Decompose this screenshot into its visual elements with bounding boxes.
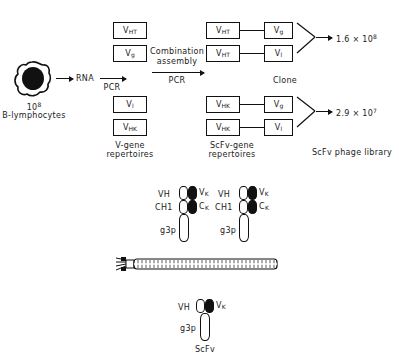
v-gene-box-1-label: Vg bbox=[125, 49, 135, 58]
v-gene-box-2-label: Vl bbox=[126, 100, 133, 109]
v-gene-box-0-label: VHT bbox=[123, 26, 137, 35]
clone-label: Clone bbox=[273, 76, 297, 86]
scfv-pair-0-connector bbox=[240, 30, 264, 31]
scfv-name-label: ScFv bbox=[195, 345, 215, 355]
scfv-pair-3-right: Vl bbox=[264, 119, 293, 136]
scfv-g3p-stalk bbox=[200, 313, 210, 341]
b-lymphocyte-cell-icon bbox=[12, 60, 54, 98]
scfv-vk-domain bbox=[205, 299, 214, 313]
scfv-pair-1-right: Vl bbox=[264, 45, 293, 62]
scfv-pair-2-right-label: Vg bbox=[274, 100, 284, 109]
v-gene-box-2: Vl bbox=[113, 96, 147, 113]
scfv-gene-caption-line2: repertoires bbox=[208, 150, 255, 160]
fab-right-vh-label: VH bbox=[218, 190, 230, 200]
scfv-pair-3-connector bbox=[240, 127, 264, 128]
scfv-pair-0-right: Vg bbox=[264, 22, 293, 39]
arrow-rna-to-vgene bbox=[100, 78, 126, 79]
fab-left-vh-label: VH bbox=[158, 190, 170, 200]
scfv-vh-domain bbox=[196, 299, 205, 313]
fab-right-ck-domain bbox=[248, 200, 257, 214]
scfv-pair-1-left-label: VHT bbox=[216, 49, 230, 58]
scfv-pair-2-connector bbox=[240, 104, 264, 105]
pcr-first-label: PCR bbox=[104, 83, 121, 93]
scfv-vk-label: VK bbox=[216, 301, 226, 312]
fork-bottom-icon bbox=[296, 96, 320, 132]
v-gene-box-3: VHK bbox=[113, 119, 147, 136]
scfv-pair-0-right-label: Vg bbox=[274, 26, 284, 35]
scfv-pair-3-right-label: Vl bbox=[275, 123, 282, 132]
scfv-pair-3-left-label: VHK bbox=[216, 123, 230, 132]
rna-label: RNA bbox=[76, 74, 94, 84]
scfv-pair-3-left: VHK bbox=[206, 119, 240, 136]
fab-right-ch1-domain bbox=[239, 200, 248, 214]
v-gene-box-3-label: VHK bbox=[123, 123, 137, 132]
combination-assembly-line1: Combination bbox=[150, 47, 204, 57]
arrow-cell-to-rna bbox=[56, 78, 73, 79]
fab-left-vh-domain bbox=[179, 186, 188, 200]
fab-left-g3p-stalk bbox=[179, 214, 189, 242]
scfv-pair-1-left: VHT bbox=[206, 45, 240, 62]
scfv-vh-label: VH bbox=[178, 303, 190, 313]
fab-left-ch1-domain bbox=[179, 200, 188, 214]
scfv-pair-2-right: Vg bbox=[264, 96, 293, 113]
arrow-to-clone-count-top bbox=[316, 37, 332, 38]
arrow-combination-assembly bbox=[152, 72, 204, 73]
fab-left-vk-label: VK bbox=[199, 188, 209, 199]
combination-assembly-line2: assembly bbox=[157, 57, 197, 67]
fab-right-g3p-label: g3p bbox=[220, 226, 236, 236]
fab-left-ck-label: CK bbox=[199, 202, 209, 213]
fab-left-vk-domain bbox=[188, 186, 197, 200]
filamentous-phage-particle-icon bbox=[112, 252, 280, 278]
scfv-pair-2-left: VHK bbox=[206, 96, 240, 113]
fab-left-ch1-label: CH1 bbox=[155, 203, 173, 213]
fab-right-ch1-label: CH1 bbox=[215, 203, 233, 213]
b-lymphocytes-label: B-lymphocytes bbox=[2, 111, 65, 121]
fab-right-vk-label: VK bbox=[259, 188, 269, 199]
fab-left-ck-domain bbox=[188, 200, 197, 214]
scfv-pair-0-left-label: VHT bbox=[216, 26, 230, 35]
fork-top-icon bbox=[296, 22, 320, 58]
v-gene-box-0: VHT bbox=[113, 22, 147, 39]
scfv-pair-1-connector bbox=[240, 53, 264, 54]
pcr-second-label: PCR bbox=[169, 76, 186, 86]
v-gene-caption-line2: repertoires bbox=[106, 150, 153, 160]
fab-left-g3p-label: g3p bbox=[160, 226, 176, 236]
scfv-pair-1-right-label: Vl bbox=[275, 49, 282, 58]
arrow-to-clone-count-bottom bbox=[316, 111, 332, 112]
fab-right-g3p-stalk bbox=[239, 214, 249, 242]
v-gene-box-1: Vg bbox=[113, 45, 147, 62]
fab-right-vh-domain bbox=[239, 186, 248, 200]
fab-right-ck-label: CK bbox=[259, 202, 269, 213]
scfv-pair-0-left: VHT bbox=[206, 22, 240, 39]
scfv-phage-library-label: ScFv phage library bbox=[312, 148, 392, 158]
scfv-pair-2-left-label: VHK bbox=[216, 100, 230, 109]
scfv-g3p-label: g3p bbox=[180, 324, 196, 334]
clone-count-top: 1.6 × 108 bbox=[336, 32, 377, 45]
fab-right-vk-domain bbox=[248, 186, 257, 200]
clone-count-bottom: 2.9 × 107 bbox=[336, 106, 377, 119]
